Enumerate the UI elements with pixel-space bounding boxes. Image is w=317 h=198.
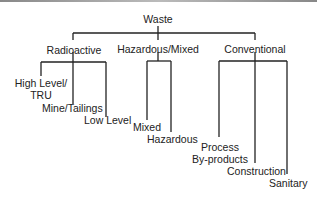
- node-conventional: Conventional: [222, 43, 288, 55]
- node-mine-tailings: Mine/Tailings: [42, 102, 103, 114]
- node-process-line2: By-products: [190, 153, 250, 165]
- node-process-line1: Process: [190, 141, 250, 153]
- node-process-byproducts: Process By-products: [190, 141, 250, 165]
- node-radioactive: Radioactive: [43, 44, 105, 56]
- node-high-level-line2: TRU: [13, 89, 69, 101]
- node-sanitary: Sanitary: [269, 177, 308, 189]
- node-low-level: Low Level: [84, 114, 131, 126]
- node-high-level: High Level/ TRU: [13, 77, 69, 101]
- node-construction: Construction: [227, 165, 286, 177]
- node-mixed: Mixed: [133, 121, 161, 133]
- node-high-level-line1: High Level/: [13, 77, 69, 89]
- node-waste: Waste: [138, 13, 178, 25]
- node-hazardous-mixed: Hazardous/Mixed: [117, 43, 199, 55]
